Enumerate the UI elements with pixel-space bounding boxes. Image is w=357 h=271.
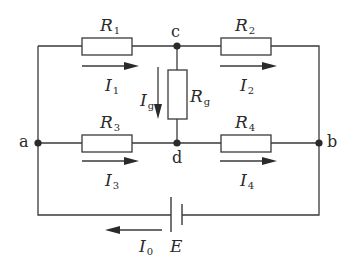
arrow-i1-icon — [124, 62, 139, 70]
resistor-rg-label: Rg — [190, 88, 210, 107]
resistor-r3-label: R3 — [100, 114, 120, 133]
resistor-r2 — [221, 38, 271, 55]
arrow-i0-icon — [105, 226, 120, 234]
node-a-dot — [34, 139, 41, 146]
source-e-label: E — [170, 238, 182, 255]
current-i2-label: I2 — [240, 77, 254, 96]
node-a-label: a — [19, 134, 29, 150]
node-d-label: d — [172, 150, 182, 166]
arrow-i4-icon — [262, 157, 277, 165]
resistor-r1 — [82, 38, 132, 55]
node-b-dot — [315, 139, 322, 146]
resistor-rg — [168, 70, 187, 119]
arrow-i3-icon — [124, 157, 139, 165]
current-ig-label: Ig — [140, 92, 154, 111]
resistor-r1-label: R1 — [100, 17, 120, 36]
current-i1-label: I1 — [105, 77, 119, 96]
current-i3-label: I3 — [105, 172, 119, 191]
node-c-dot — [173, 42, 180, 49]
node-d-dot — [173, 139, 180, 146]
resistor-r4-label: R4 — [235, 114, 255, 133]
arrow-ig-icon — [154, 104, 162, 119]
resistor-r4 — [221, 135, 271, 152]
resistor-r3 — [82, 135, 132, 152]
bridge-circuit-diagram: c d a b R1 R2 R3 R4 Rg I1 I2 I3 I4 Ig I0… — [0, 0, 357, 271]
resistor-r2-label: R2 — [235, 17, 255, 36]
arrow-i2-icon — [262, 62, 277, 70]
node-b-label: b — [327, 134, 337, 150]
current-i4-label: I4 — [240, 172, 254, 191]
wire-top — [38, 46, 319, 143]
node-c-label: c — [171, 24, 180, 40]
current-i0-label: I0 — [139, 238, 153, 257]
